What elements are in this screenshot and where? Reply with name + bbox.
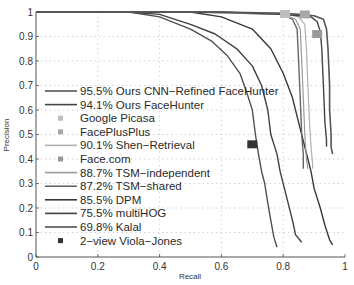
legend-marker-icon bbox=[58, 129, 63, 134]
x-tick-label: 1 bbox=[342, 261, 348, 272]
x-tick-label: 0.6 bbox=[214, 261, 228, 272]
x-tick-label: 0.8 bbox=[276, 261, 290, 272]
legend-item: 75.5% multiHOG bbox=[45, 207, 166, 219]
legend-marker-icon bbox=[58, 116, 63, 121]
legend-label: Face.com bbox=[80, 153, 131, 165]
x-tick-label: 0.4 bbox=[153, 261, 167, 272]
legend-marker-icon bbox=[58, 157, 63, 162]
y-tick-label: 0.3 bbox=[19, 178, 33, 189]
y-tick-labels: 00.10.20.30.40.50.60.70.80.91 bbox=[19, 7, 33, 263]
legend-label: 85.5% DPM bbox=[80, 194, 141, 206]
legend-label: Google Picasa bbox=[80, 112, 155, 124]
series-marker bbox=[300, 10, 310, 18]
series-marker bbox=[280, 10, 290, 18]
x-axis-label: Recall bbox=[179, 272, 201, 281]
y-tick-label: 1 bbox=[27, 7, 33, 18]
y-axis-label: Precision bbox=[2, 119, 11, 152]
legend-marker-icon bbox=[58, 238, 63, 243]
legend-label: 69.8% Kalal bbox=[80, 221, 141, 233]
y-tick-label: 0.1 bbox=[19, 227, 33, 238]
legend-item: 85.5% DPM bbox=[45, 194, 141, 206]
legend-item: 90.1% Shen−Retrieval bbox=[45, 139, 195, 151]
legend-item: 2−view Viola−Jones bbox=[58, 235, 182, 247]
y-tick-label: 0.9 bbox=[19, 31, 33, 42]
precision-recall-chart: 00.20.40.60.81 00.10.20.30.40.50.60.70.8… bbox=[0, 0, 354, 285]
legend-item: Google Picasa bbox=[58, 112, 155, 124]
legend-label: 90.1% Shen−Retrieval bbox=[80, 139, 195, 151]
legend-item: 87.2% TSM−shared bbox=[45, 180, 182, 192]
legend-item: 69.8% Kalal bbox=[45, 221, 141, 233]
legend: 95.5% Ours CNN−Refined FaceHunter94.1% O… bbox=[45, 85, 279, 247]
legend-label: FacePlusPlus bbox=[80, 126, 151, 138]
y-tick-label: 0 bbox=[27, 252, 33, 263]
legend-label: 88.7% TSM−independent bbox=[80, 167, 211, 179]
legend-label: 87.2% TSM−shared bbox=[80, 180, 182, 192]
x-tick-label: 0.2 bbox=[91, 261, 105, 272]
y-tick-label: 0.5 bbox=[19, 129, 33, 140]
legend-label: 95.5% Ours CNN−Refined FaceHunter bbox=[80, 85, 279, 97]
legend-label: 2−view Viola−Jones bbox=[80, 235, 182, 247]
legend-item: 88.7% TSM−independent bbox=[45, 167, 211, 179]
x-tick-labels: 00.20.40.60.81 bbox=[33, 261, 348, 272]
legend-label: 94.1% Ours FaceHunter bbox=[80, 99, 204, 111]
legend-item: 94.1% Ours FaceHunter bbox=[45, 99, 204, 111]
y-tick-label: 0.2 bbox=[19, 203, 33, 214]
y-tick-label: 0.7 bbox=[19, 80, 33, 91]
legend-label: 75.5% multiHOG bbox=[80, 207, 166, 219]
x-tick-label: 0 bbox=[33, 261, 39, 272]
series-marker bbox=[247, 140, 257, 148]
y-tick-label: 0.6 bbox=[19, 105, 33, 116]
legend-item: 95.5% Ours CNN−Refined FaceHunter bbox=[45, 85, 279, 97]
legend-item: FacePlusPlus bbox=[58, 126, 151, 138]
series-marker bbox=[312, 30, 322, 38]
y-tick-label: 0.4 bbox=[19, 154, 33, 165]
y-tick-label: 0.8 bbox=[19, 56, 33, 67]
